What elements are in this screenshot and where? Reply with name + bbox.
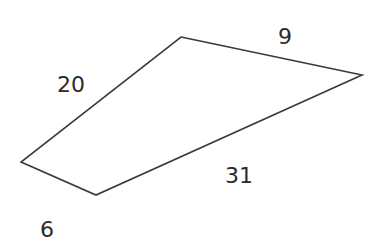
quadrilateral-diagram: 20 9 31 6 — [0, 0, 386, 239]
side-label-bottom-left: 6 — [40, 217, 54, 239]
side-label-bottom-right: 31 — [225, 163, 253, 188]
side-label-top-left: 20 — [57, 72, 85, 97]
side-label-top-right: 9 — [278, 24, 292, 49]
quadrilateral-outline — [21, 37, 362, 195]
